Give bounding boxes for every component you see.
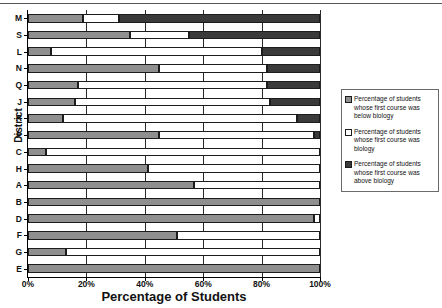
bar-segment-below <box>28 64 159 73</box>
bar-segment-above <box>267 81 320 90</box>
bar-segment-biology <box>46 148 320 157</box>
bar-row <box>28 164 320 173</box>
legend-swatch-above <box>345 161 352 168</box>
bar-segment-below <box>28 31 130 40</box>
figure-top-rule <box>0 3 442 4</box>
y-tick-label: C <box>0 147 22 157</box>
bar-rows <box>28 10 320 277</box>
x-tick-mark <box>320 277 321 281</box>
bar-segment-below <box>28 214 314 223</box>
bar-row <box>28 14 320 23</box>
legend-item[interactable]: Percentage of students whose first cours… <box>345 95 435 121</box>
legend-item[interactable]: Percentage of students whose first cours… <box>345 160 435 186</box>
bar-segment-above <box>297 114 320 123</box>
bar-segment-biology <box>194 181 320 190</box>
y-tick-label: G <box>0 247 22 257</box>
bar-segment-below <box>28 181 194 190</box>
bar-segment-above <box>119 14 320 23</box>
y-tick-mark <box>24 68 28 69</box>
bar-segment-biology <box>78 81 268 90</box>
y-tick-label: B <box>0 197 22 207</box>
bar-row <box>28 148 320 157</box>
y-tick-label: E <box>0 264 22 274</box>
y-tick-label: S <box>0 30 22 40</box>
y-tick-label: A <box>0 180 22 190</box>
bar-segment-biology <box>83 14 118 23</box>
x-tick-mark <box>262 277 263 281</box>
bar-segment-below <box>28 47 51 56</box>
bar-segment-biology <box>63 114 297 123</box>
legend-swatch-below <box>345 96 352 103</box>
y-tick-label: M <box>0 13 22 23</box>
x-tick-mark <box>86 277 87 281</box>
bar-segment-above <box>189 31 320 40</box>
y-tick-mark <box>24 118 28 119</box>
x-tick-mark <box>203 277 204 281</box>
bar-segment-biology <box>159 64 267 73</box>
bar-segment-above <box>314 131 320 140</box>
bar-segment-biology <box>148 164 320 173</box>
y-tick-mark <box>24 219 28 220</box>
bar-segment-above <box>267 64 320 73</box>
bar-segment-below <box>28 98 75 107</box>
x-axis-line <box>27 277 320 278</box>
y-tick-mark <box>24 52 28 53</box>
bar-segment-biology <box>177 231 320 240</box>
y-tick-mark <box>24 235 28 236</box>
bar-row <box>28 31 320 40</box>
legend-swatch-bio <box>345 129 352 136</box>
bar-row <box>28 81 320 90</box>
bar-row <box>28 264 320 273</box>
y-tick-label: P <box>0 130 22 140</box>
bar-row <box>28 114 320 123</box>
y-tick-mark <box>24 185 28 186</box>
bar-row <box>28 198 320 207</box>
legend-item[interactable]: Percentage of students whose first cours… <box>345 128 435 154</box>
bar-row <box>28 64 320 73</box>
bar-segment-biology <box>130 31 188 40</box>
y-tick-mark <box>24 269 28 270</box>
plot-area <box>28 10 320 277</box>
legend-label: Percentage of students whose first cours… <box>354 160 435 186</box>
y-tick-mark <box>24 252 28 253</box>
y-tick-mark <box>24 152 28 153</box>
y-tick-label: N <box>0 63 22 73</box>
y-tick-label: H <box>0 164 22 174</box>
bar-segment-biology <box>159 131 314 140</box>
bar-segment-below <box>28 131 159 140</box>
bar-segment-below <box>28 198 320 207</box>
bar-segment-below <box>28 231 177 240</box>
bar-row <box>28 181 320 190</box>
bar-segment-below <box>28 248 66 257</box>
bar-segment-above <box>270 98 320 107</box>
y-tick-label: F <box>0 230 22 240</box>
y-tick-label: D <box>0 214 22 224</box>
y-tick-mark <box>24 135 28 136</box>
y-tick-label: L <box>0 47 22 57</box>
y-tick-mark <box>24 202 28 203</box>
bar-row <box>28 231 320 240</box>
y-tick-label: Q <box>0 80 22 90</box>
bar-row <box>28 214 320 223</box>
bar-segment-below <box>28 148 46 157</box>
chart-legend: Percentage of students whose first cours… <box>341 89 439 192</box>
bar-row <box>28 98 320 107</box>
bar-segment-below <box>28 81 78 90</box>
y-tick-label: J <box>0 97 22 107</box>
legend-label: Percentage of students whose first cours… <box>354 128 435 154</box>
bar-segment-below <box>28 264 320 273</box>
bar-segment-biology <box>314 214 320 223</box>
x-tick-mark <box>28 277 29 281</box>
y-tick-label: R <box>0 113 22 123</box>
bar-segment-above <box>262 47 320 56</box>
bar-segment-biology <box>66 248 320 257</box>
legend-label: Percentage of students whose first cours… <box>354 95 435 121</box>
bar-row <box>28 47 320 56</box>
chart-figure: District MSLNQJRPCHABDFGE 0%20%40%60%80%… <box>0 0 442 308</box>
x-axis-title: Percentage of Students <box>28 289 320 304</box>
bar-segment-biology <box>75 98 271 107</box>
x-tick-mark <box>145 277 146 281</box>
y-tick-mark <box>24 85 28 86</box>
bar-segment-below <box>28 114 63 123</box>
y-tick-mark <box>24 18 28 19</box>
